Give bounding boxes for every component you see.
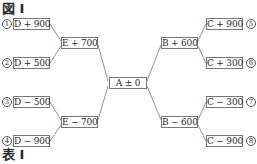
node-d-minus-900: D − 900 xyxy=(13,135,50,147)
node-a: A ± 0 xyxy=(109,77,147,89)
node-d-plus-900: D + 900 xyxy=(13,18,50,30)
node-c-minus-300: C − 300 xyxy=(206,96,243,108)
node-c-minus-900: C − 900 xyxy=(206,135,243,147)
circled-number-1: 1 xyxy=(2,19,12,29)
circled-number-3: 3 xyxy=(2,97,12,107)
circled-number-6: 6 xyxy=(246,58,256,68)
circled-number-5: 5 xyxy=(246,19,256,29)
circled-number-2: 2 xyxy=(2,58,12,68)
node-c-plus-300: C + 300 xyxy=(206,57,243,69)
circled-number-7: 7 xyxy=(246,97,256,107)
node-e-plus: E + 700 xyxy=(61,37,98,49)
node-d-minus-500: D − 500 xyxy=(13,96,50,108)
node-d-plus-500: D + 500 xyxy=(13,57,50,69)
node-b-plus: B + 600 xyxy=(161,37,198,49)
circled-number-4: 4 xyxy=(2,136,12,146)
node-b-minus: B − 600 xyxy=(161,116,198,128)
node-e-minus: E − 700 xyxy=(61,116,98,128)
circled-number-8: 8 xyxy=(246,136,256,146)
node-c-plus-900: C + 900 xyxy=(206,18,243,30)
